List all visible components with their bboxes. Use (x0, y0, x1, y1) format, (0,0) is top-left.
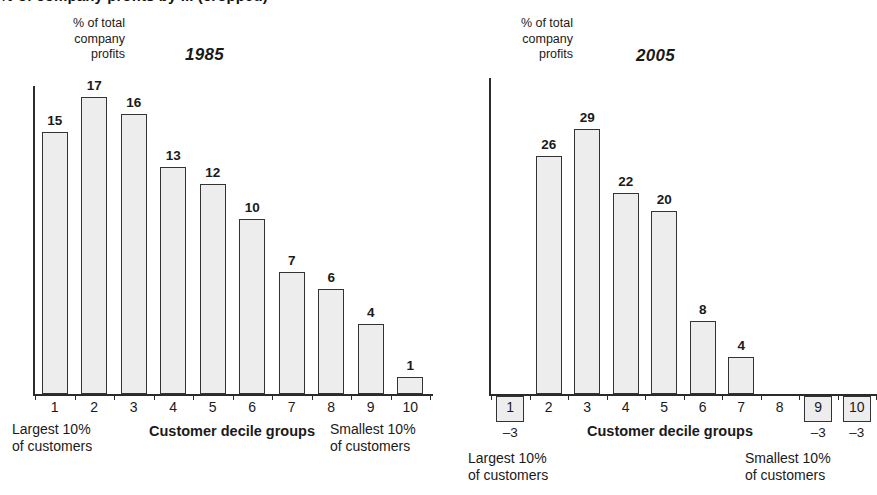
category-label: 8 (311, 399, 351, 415)
negative-value-label: –3 (835, 425, 877, 440)
bar (200, 184, 226, 394)
right-end-note-line2: of customers (745, 467, 831, 484)
category-label: 9 (798, 399, 838, 415)
y-axis-line (33, 86, 35, 396)
left-end-note: Largest 10% of customers (468, 450, 548, 484)
category-label: 5 (644, 399, 684, 415)
left-end-note: Largest 10% of customers (12, 421, 92, 455)
y-axis-line (489, 78, 491, 396)
bar-value-label: 8 (681, 302, 725, 317)
left-end-note-line2: of customers (468, 467, 548, 484)
category-label: 2 (74, 399, 114, 415)
category-label: 3 (567, 399, 607, 415)
left-end-note-line1: Largest 10% (12, 421, 92, 438)
left-end-note-line2: of customers (12, 438, 92, 455)
category-label: 7 (272, 399, 312, 415)
category-label: 6 (683, 399, 723, 415)
bar (42, 132, 68, 395)
bar-value-label: 7 (270, 253, 314, 268)
bar (613, 193, 639, 394)
bar (358, 324, 384, 394)
bar (651, 211, 677, 394)
bar-value-label: 4 (349, 305, 393, 320)
bar-value-label: 10 (230, 200, 274, 215)
right-end-note: Smallest 10% of customers (330, 421, 416, 455)
bar-value-label: 29 (565, 110, 609, 125)
bar (121, 114, 147, 394)
category-label: 9 (351, 399, 391, 415)
bar (574, 129, 600, 394)
category-label: 10 (837, 399, 877, 415)
right-end-note-line1: Smallest 10% (330, 421, 416, 438)
bar (397, 377, 423, 395)
bar-value-label: 20 (642, 192, 686, 207)
category-label: 8 (760, 399, 800, 415)
category-label: 4 (606, 399, 646, 415)
bar-value-label: 26 (527, 137, 571, 152)
chart-panel-2005: % of total company profits 2005 1–326229… (440, 0, 877, 495)
right-end-note-line1: Smallest 10% (745, 450, 831, 467)
chart-panel-1985: % of total company profits 1985 15117216… (0, 0, 440, 495)
category-label: 4 (153, 399, 193, 415)
bar-value-label: 22 (604, 174, 648, 189)
category-label: 1 (35, 399, 75, 415)
bar-value-label: 17 (72, 78, 116, 93)
category-label: 1 (490, 399, 530, 415)
bar-value-label: 15 (33, 113, 77, 128)
bar (279, 272, 305, 395)
bar (690, 321, 716, 394)
right-end-note: Smallest 10% of customers (745, 450, 831, 484)
negative-value-label: –3 (796, 425, 840, 440)
bar (728, 357, 754, 394)
category-label: 2 (529, 399, 569, 415)
bar-value-label: 13 (151, 148, 195, 163)
category-label: 3 (114, 399, 154, 415)
category-label: 10 (390, 399, 430, 415)
bar (318, 289, 344, 394)
x-axis-title: Customer decile groups (122, 423, 342, 439)
bar (239, 219, 265, 394)
bar-value-label: 12 (191, 165, 235, 180)
category-label: 5 (193, 399, 233, 415)
category-label: 7 (721, 399, 761, 415)
bar-value-label: 1 (388, 358, 432, 373)
left-end-note-line1: Largest 10% (468, 450, 548, 467)
bar-value-label: 4 (719, 338, 763, 353)
bar (160, 167, 186, 395)
category-label: 6 (232, 399, 272, 415)
negative-value-label: –3 (488, 425, 532, 440)
bar-value-label: 6 (309, 270, 353, 285)
right-end-note-line2: of customers (330, 438, 416, 455)
plot-area-2005: 1–3262293224205864789–310–3 (440, 0, 877, 495)
bar (536, 156, 562, 394)
bar-value-label: 16 (112, 95, 156, 110)
x-axis-title: Customer decile groups (560, 423, 780, 439)
bar (81, 97, 107, 395)
